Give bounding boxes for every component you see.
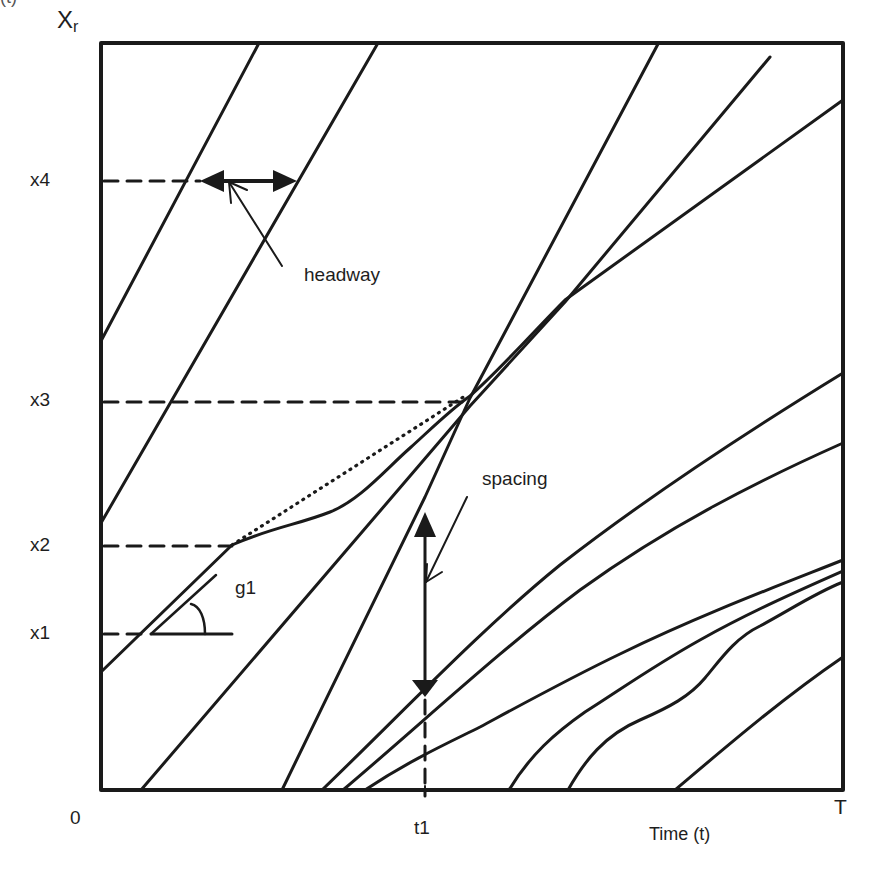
y-axis-label: Xr [57,8,78,35]
trajectory-11 [675,657,843,790]
origin-label: 0 [70,808,81,827]
caption-fragment: (t) [0,0,17,6]
trajectory-6 [322,373,843,790]
trajectory-3-projected [232,396,465,545]
angle-label-g1: g1 [235,578,256,597]
trajectory-4 [141,57,770,790]
trajectory-7 [343,443,843,790]
trajectory-9 [509,571,843,790]
x-axis-label: Time (t) [649,825,710,843]
trajectory-8 [365,560,843,790]
y-tick-x2: x2 [30,535,50,554]
spacing-arrow [412,497,467,697]
spacing-label: spacing [482,469,548,488]
y-axis-label-main: X [57,6,73,33]
spacing-pointer [426,497,467,582]
x-tick-t1: t1 [414,818,430,837]
time-space-diagram [0,0,880,869]
y-axis-label-subscript: r [73,18,78,35]
trajectories [101,43,843,790]
headway-arrow [200,170,297,266]
y-tick-x4: x4 [30,170,50,189]
y-tick-x1: x1 [30,623,50,642]
x-end-label-T: T [834,796,847,817]
y-tick-x3: x3 [30,390,50,409]
headway-label: headway [304,265,380,284]
